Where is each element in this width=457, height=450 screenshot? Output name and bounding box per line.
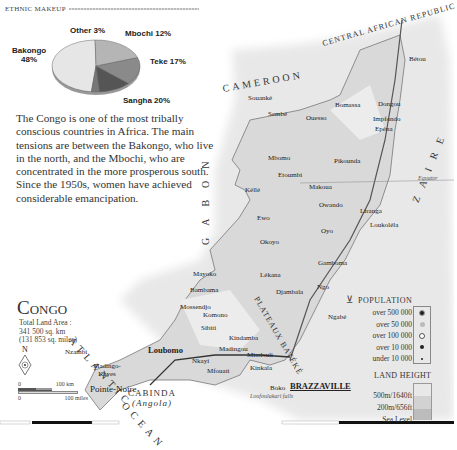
- population-legend-arrow-icon: ⊻: [346, 294, 353, 305]
- label-gabon: GABON: [200, 149, 211, 245]
- symbol-over-100000-icon: [419, 333, 425, 339]
- scale-zero-km: 0: [18, 381, 21, 387]
- city-mayoko: Mayoko: [193, 270, 216, 278]
- city-pointe-noire: Pointe-Noire: [90, 384, 137, 394]
- city-bomassa: Bomassa: [335, 101, 360, 109]
- city-loubomo: Loubomo: [148, 345, 183, 355]
- swatch-high: [414, 384, 431, 396]
- country-title: Congo: [17, 297, 67, 319]
- label-equator: Equator: [418, 175, 438, 181]
- city-mbomo: Mbomo: [268, 154, 290, 162]
- city-lekana: Lékana: [260, 271, 281, 279]
- city-souanke: Souanké: [248, 94, 272, 102]
- city-owando: Owando: [319, 201, 343, 209]
- city-pikounda: Pikounda: [334, 157, 360, 165]
- city-ngabe: Ngabé: [328, 313, 346, 321]
- city-betou: Bétou: [409, 55, 426, 63]
- city-kelle: Kéllé: [245, 186, 260, 194]
- label-brazzaville-capital: BRAZZAVILLE: [290, 381, 351, 391]
- compass-rose-icon: [18, 354, 32, 376]
- population-legend-title: POPULATION: [358, 296, 412, 305]
- pop-item-0: over 500 000: [360, 307, 412, 319]
- scale-zero-miles: 0: [18, 395, 21, 401]
- pop-item-2: over 100 000: [360, 330, 412, 342]
- city-komono: Komono: [203, 311, 228, 319]
- population-symbols: [413, 306, 431, 364]
- city-okoyo: Okoyo: [260, 238, 279, 246]
- height-200m: 200m/656ft: [360, 402, 412, 414]
- land-height-title: LAND HEIGHT: [374, 371, 431, 380]
- city-djambala: Djambala: [276, 288, 303, 296]
- city-nkayi: Nkayi: [192, 357, 209, 365]
- swatch-mid: [414, 396, 431, 409]
- city-madingou: Madingou: [219, 345, 248, 353]
- city-madingo-kayes: Madingo-Kayes: [88, 362, 126, 378]
- height-500m: 500m/1640ft: [360, 390, 412, 402]
- city-mindouli: Mindouli: [247, 351, 273, 359]
- city-dongou: Dongou: [378, 100, 401, 108]
- city-mfouati: Mfouati: [207, 367, 230, 375]
- city-mossendjo: Mossendjo: [180, 303, 211, 311]
- symbol-over-50000-icon: [420, 322, 425, 327]
- pop-item-4: under 10 000: [360, 353, 412, 365]
- height-sea-level: Sea Level: [360, 414, 412, 426]
- city-loukolela: Loukoléla: [370, 221, 398, 229]
- city-impfondo: Impfondo: [373, 115, 401, 123]
- symbol-over-10000-icon: [420, 345, 424, 349]
- city-etoumbi: Etoumbi: [278, 171, 302, 179]
- compass-north-label: N: [18, 345, 32, 354]
- land-height-swatches: [413, 383, 432, 420]
- symbol-under-10000-icon: [421, 358, 424, 361]
- city-makoua: Makoua: [309, 183, 332, 191]
- city-sembe: Sembé: [268, 110, 287, 118]
- land-height-labels: 500m/1640ft 200m/656ft Sea Level: [360, 390, 412, 426]
- compass: N: [18, 345, 32, 378]
- city-ngo: Ngo: [317, 283, 329, 291]
- pop-item-3: over 10 000: [360, 342, 412, 354]
- city-ouesso: Ouesso: [306, 114, 327, 122]
- city-bambama: Bambama: [190, 286, 218, 294]
- city-nzambi: Nzambi: [65, 348, 87, 356]
- label-loufoulakari-falls: Loufoulakari falls: [250, 393, 293, 399]
- area-miles: (131 853 sq. miles): [19, 336, 77, 345]
- land-area: Total Land Area : 341 500 sq. km (131 85…: [19, 319, 77, 345]
- city-oyo: Oyo: [321, 227, 333, 235]
- city-liranga: Liranga: [360, 207, 382, 215]
- symbol-over-500000-icon: [419, 310, 425, 316]
- population-legend-list: over 500 000 over 50 000 over 100 000 ov…: [360, 307, 412, 365]
- city-epena: Epéna: [375, 125, 393, 133]
- city-kinkala: Kinkala: [250, 364, 272, 372]
- city-boko: Boko: [270, 384, 285, 392]
- city-ewo: Ewo: [257, 214, 270, 222]
- scale-bar: 0100 km 0100 miles: [18, 381, 88, 401]
- city-gamboma: Gamboma: [318, 259, 347, 267]
- pop-item-1: over 50 000: [360, 319, 412, 331]
- scale-miles-label: 100 miles: [65, 395, 89, 401]
- scale-km-label: 100 km: [56, 381, 74, 387]
- swatch-low: [414, 409, 431, 420]
- city-sibiti: Sibiti: [201, 324, 216, 332]
- city-kindamba: Kindamba: [229, 334, 258, 342]
